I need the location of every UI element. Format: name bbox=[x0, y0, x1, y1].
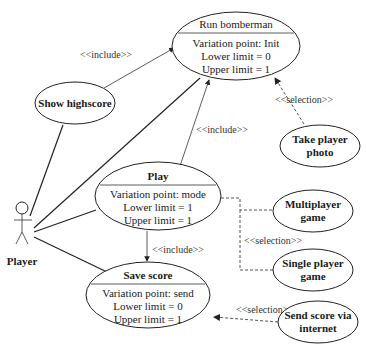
use-case-run-bomberman: Run bomberman Variation point: Init Lowe… bbox=[172, 12, 300, 80]
play-variation: Variation point: mode bbox=[110, 188, 206, 200]
play-lower: Lower limit = 1 bbox=[123, 201, 192, 213]
save-score-variation: Variation point: send bbox=[102, 287, 194, 299]
selection-label-photo: <<selection>> bbox=[275, 94, 333, 105]
send-score-line2: internet bbox=[299, 322, 337, 334]
use-case-play: Play Variation point: mode Lower limit =… bbox=[95, 162, 221, 230]
include-label-highscore: <<include>> bbox=[80, 49, 132, 60]
selection-label-play-mode: <<selection>> bbox=[244, 235, 302, 246]
use-case-diagram: <<include>> <<include>> <<selection>> <<… bbox=[0, 0, 366, 350]
play-title: Play bbox=[148, 170, 169, 182]
actor-player bbox=[14, 202, 32, 244]
assoc-player-play bbox=[34, 210, 96, 232]
single-player-line2: game bbox=[300, 270, 325, 282]
use-case-show-highscore: Show highscore bbox=[35, 82, 115, 124]
play-upper: Upper limit = 1 bbox=[124, 214, 192, 226]
save-score-upper: Upper limit = 1 bbox=[114, 313, 182, 325]
save-score-lower: Lower limit = 0 bbox=[113, 300, 183, 312]
run-bomberman-lower: Lower limit = 0 bbox=[201, 50, 271, 62]
selection-arrow-send-score bbox=[214, 317, 278, 322]
use-case-send-score-via-internet: Send score via internet bbox=[278, 301, 358, 343]
use-case-single-player-game: Single player game bbox=[273, 249, 353, 291]
use-case-multiplayer-game: Multiplayer game bbox=[273, 190, 353, 232]
include-label-play-save: <<include>> bbox=[152, 244, 204, 255]
use-case-take-player-photo: Take player photo bbox=[280, 125, 360, 167]
include-label-play-run: <<include>> bbox=[196, 124, 248, 135]
take-photo-line1: Take player bbox=[292, 133, 348, 145]
multiplayer-line2: game bbox=[300, 211, 325, 223]
assoc-player-show-highscore bbox=[30, 125, 63, 216]
assoc-player-save-score bbox=[34, 237, 107, 272]
multiplayer-line1: Multiplayer bbox=[285, 198, 341, 210]
actor-label: Player bbox=[7, 255, 38, 267]
run-bomberman-variation: Variation point: Init bbox=[193, 37, 280, 49]
run-bomberman-upper: Upper limit = 1 bbox=[202, 63, 270, 75]
send-score-line1: Send score via bbox=[284, 309, 352, 321]
use-case-save-score: Save score Variation point: send Lower l… bbox=[86, 262, 210, 328]
play-mode-selection bbox=[221, 198, 273, 270]
show-highscore-title: Show highscore bbox=[38, 97, 112, 109]
run-bomberman-title: Run bomberman bbox=[199, 18, 273, 30]
single-player-line1: Single player bbox=[282, 257, 344, 269]
actor-head bbox=[16, 202, 28, 214]
save-score-title: Save score bbox=[124, 269, 173, 281]
take-photo-line2: photo bbox=[307, 146, 334, 158]
